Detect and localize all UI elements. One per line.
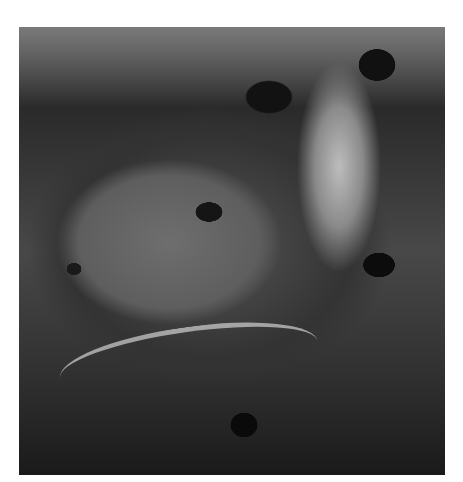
crater-rim-highlight — [56, 309, 323, 410]
lunar-crater-photo — [19, 27, 445, 475]
